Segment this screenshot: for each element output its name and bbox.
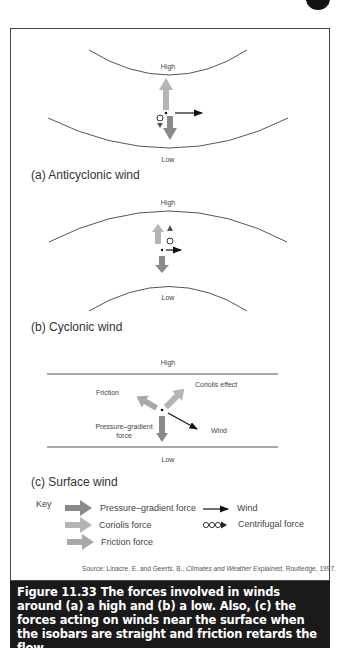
panel-c-surface: High Low Friction Coriolis effect Pressu… [47,359,278,463]
panel-a-title: (a) Anticyclonic wind [31,168,140,182]
key-centrifugal-arrow-icon [203,522,227,529]
label-low: Low [162,156,176,163]
centrifugal-circle-icon [167,238,173,244]
source-citation: Source: Linacre, E. and Geerts, B., Clim… [82,565,336,572]
key-pressure-gradient-arrow-icon [65,500,92,516]
label-high: High [161,63,176,71]
panel-c-title: (c) Surface wind [31,475,118,489]
key-title: Key [36,499,52,509]
panel-b-cyclonic: High Low [49,199,287,311]
key-label-pressure-gradient: Pressure–gradient force [100,503,196,513]
wind-arrow-icon [168,413,197,429]
air-parcel-dot-icon [161,409,164,412]
source-book-title: Climates and Weather Explained [186,565,282,572]
key-coriolis-arrow-icon [65,517,92,533]
key-friction-arrow-icon [67,534,94,550]
isobar-high [49,211,287,242]
pressure-gradient-arrow-icon [156,416,168,442]
coriolis-arrow-icon [161,384,189,412]
key-label-coriolis: Coriolis force [99,520,152,530]
pressure-gradient-arrow-icon [155,256,169,273]
label-coriolis: Coriolis effect [195,381,237,388]
panel-a-anticyclonic: High Low [48,50,288,163]
figure-number: Figure 11.33 [17,585,97,599]
panel-b-title: (b) Cyclonic wind [31,320,122,334]
label-low: Low [162,456,176,463]
centrifugal-arrow-icon [167,225,173,231]
label-pressure-gradient-2: force [116,432,132,439]
pressure-gradient-arrow-icon [163,116,177,140]
air-parcel-dot-icon [165,112,168,115]
air-parcel-dot-icon [161,249,163,251]
key-label-centrifugal: Centrifugal force [238,519,304,529]
label-low: Low [162,294,176,301]
key-label-wind: Wind [237,503,258,513]
key-label-friction: Friction force [101,537,153,547]
label-friction: Friction [96,389,119,396]
label-high: High [161,359,176,367]
label-high: High [161,199,176,207]
figure-caption: Figure 11.33The forces involved in winds… [10,581,330,648]
coriolis-arrow-icon [152,224,164,244]
coriolis-arrow-icon [159,78,173,110]
friction-arrow-icon [133,390,160,414]
centrifugal-arrow-icon [157,123,163,128]
label-wind: Wind [211,427,227,434]
centrifugal-circle-icon [157,115,163,121]
label-pressure-gradient-1: Pressure–gradient [95,423,152,431]
diagram-canvas: High Low High Low High Low Friction Cori… [0,0,350,581]
